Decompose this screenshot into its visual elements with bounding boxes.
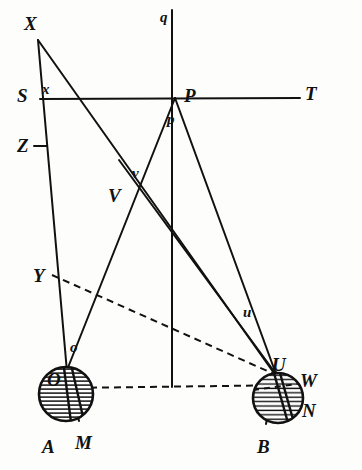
label-p-lower: p <box>167 112 175 127</box>
label-T: T <box>305 84 317 103</box>
label-o-lower: o <box>70 340 78 355</box>
label-u-lower: u <box>243 305 251 320</box>
label-A: A <box>42 437 55 456</box>
label-v-lower: v <box>132 166 139 181</box>
label-B: B <box>257 437 270 456</box>
label-M: M <box>75 433 92 452</box>
label-N: N <box>302 401 316 420</box>
figure-root: X S x Z q P p T v V Y u o O U W N A M B <box>0 0 362 470</box>
line-P-to-U <box>175 98 276 374</box>
label-q-lower: q <box>160 10 168 25</box>
label-U: U <box>272 355 286 374</box>
line-V-to-U-upper <box>119 160 276 374</box>
label-S: S <box>17 86 28 105</box>
label-Z: Z <box>17 136 29 155</box>
label-X: X <box>24 14 37 33</box>
label-x-lower: x <box>42 82 50 97</box>
label-O: O <box>47 370 61 389</box>
label-Y: Y <box>33 266 45 285</box>
label-P: P <box>184 86 196 105</box>
line-P-to-o <box>67 98 175 370</box>
line-S-T-horizontal <box>40 98 300 99</box>
label-V: V <box>108 186 121 205</box>
label-W: W <box>300 371 317 390</box>
circle-right-body <box>253 366 304 430</box>
